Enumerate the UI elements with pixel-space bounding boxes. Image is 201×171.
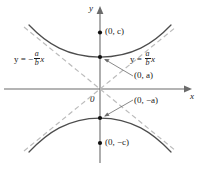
vertex-lower-point xyxy=(98,116,102,120)
hyperbola-figure: y x 0 (0, c) (0, a) (0, −a) (0, −c) y = … xyxy=(0,0,201,171)
asymptote-left-suffix: x xyxy=(40,54,44,64)
asymptote-left-denominator: b xyxy=(34,58,40,67)
asymptote-left-prefix: y = − xyxy=(14,54,33,64)
focus-lower-point xyxy=(98,141,102,145)
vertex-upper-point xyxy=(98,55,102,59)
focus-lower-label: (0, −c) xyxy=(105,138,129,147)
x-axis xyxy=(4,86,192,93)
vertex-upper-label: (0, a) xyxy=(134,71,153,80)
origin-label: 0 xyxy=(90,95,95,104)
asymptote-left-equation: y = −abx xyxy=(14,50,44,67)
asymptote-right-fraction: ab xyxy=(145,50,151,67)
vertex-lower-label: (0, −a) xyxy=(134,96,158,105)
focus-upper-point xyxy=(98,30,102,34)
y-axis xyxy=(97,6,104,163)
asymptote-right-denominator: b xyxy=(145,58,151,67)
asymptote-left-numerator: a xyxy=(34,50,40,58)
asymptote-right-numerator: a xyxy=(145,50,151,58)
leader-lines xyxy=(104,59,133,117)
asymptote-left-fraction: ab xyxy=(34,50,40,67)
focus-upper-label: (0, c) xyxy=(105,27,124,36)
asymptote-right-suffix: x xyxy=(151,54,155,64)
asymptote-right-prefix: y = xyxy=(130,54,144,64)
leader-vertex-lower xyxy=(105,100,133,116)
x-axis-label: x xyxy=(190,92,194,101)
leader-vertex-upper xyxy=(105,60,133,77)
y-axis-label: y xyxy=(89,4,93,13)
figure-canvas xyxy=(0,0,201,171)
asymptote-right-equation: y = abx xyxy=(130,50,155,67)
